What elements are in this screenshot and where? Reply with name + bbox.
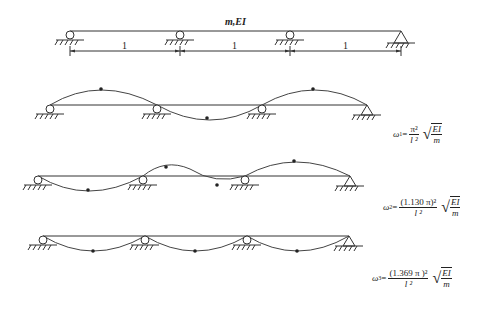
roller-support-icon bbox=[286, 31, 294, 39]
mode-shape-2 bbox=[23, 159, 364, 192]
span-label-1: 1 bbox=[122, 40, 127, 51]
beam-label: m,EI bbox=[225, 16, 246, 27]
span-label-2: 1 bbox=[232, 40, 237, 51]
mode-shape-1 bbox=[35, 87, 381, 120]
roller-support-icon bbox=[66, 31, 74, 39]
frequency-formula-1: ω1= π²l ² √EIm bbox=[393, 123, 442, 145]
frequency-formula-3: ω3= (1.369 π )²l ² √EIm bbox=[372, 267, 452, 289]
roller-support-icon bbox=[176, 31, 184, 39]
mode-shape-3 bbox=[28, 236, 363, 253]
frequency-formula-2: ω2= (1.130 π)²l ² √EIm bbox=[383, 196, 460, 218]
span-label-3: 1 bbox=[343, 40, 348, 51]
pin-support-icon bbox=[394, 31, 408, 43]
